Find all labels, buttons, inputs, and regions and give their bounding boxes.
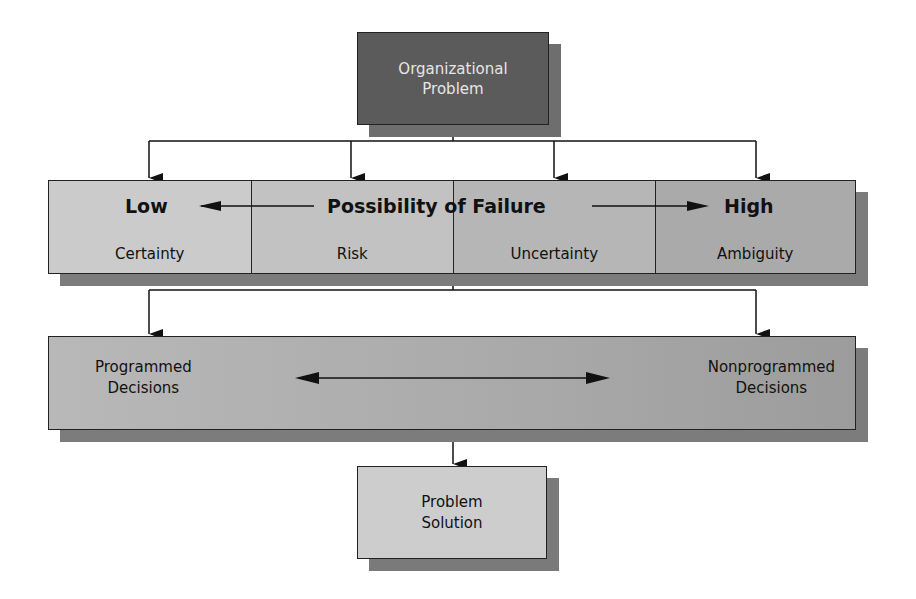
nonprogrammed-line1: Nonprogrammed bbox=[708, 357, 835, 378]
problem-solution-node: Problem Solution bbox=[357, 466, 547, 559]
decision-types-band: Programmed Decisions Nonprogrammed Decis… bbox=[48, 336, 856, 430]
ambiguity-label: Ambiguity bbox=[656, 245, 856, 263]
arrowhead-left-icon bbox=[295, 372, 319, 384]
end-node-line2: Solution bbox=[421, 513, 482, 534]
arrowhead-right-icon bbox=[586, 372, 610, 384]
risk-label: Risk bbox=[252, 245, 454, 263]
certainty-cell: Certainty bbox=[49, 181, 251, 273]
uncertainty-cell: Uncertainty bbox=[453, 181, 655, 273]
organizational-problem-node: Organizational Problem bbox=[357, 32, 549, 125]
possibility-scale-band: Certainty Risk Uncertainty Ambiguity Low… bbox=[48, 180, 856, 274]
uncertainty-label: Uncertainty bbox=[454, 245, 655, 263]
start-node-line2: Problem bbox=[422, 79, 483, 99]
ambiguity-cell: Ambiguity bbox=[655, 181, 856, 273]
start-node-line1: Organizational bbox=[398, 59, 507, 79]
nonprogrammed-decisions: Nonprogrammed Decisions bbox=[708, 357, 835, 399]
nonprogrammed-line2: Decisions bbox=[708, 378, 835, 399]
end-node-line1: Problem bbox=[421, 492, 482, 513]
certainty-label: Certainty bbox=[49, 245, 251, 263]
risk-cell: Risk bbox=[251, 181, 454, 273]
